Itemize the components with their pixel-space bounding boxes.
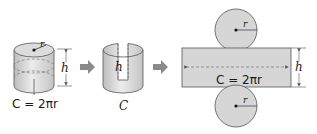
top-radius-label: r [243,19,248,29]
circumference-label: C = 2πr [12,97,58,111]
step-arrow-2 [153,60,168,74]
step-arrow-1 [80,60,95,74]
height-label: h [61,61,69,75]
rectangle-height-label: h [295,60,303,74]
opened-circumference-label: C [119,99,128,113]
cylinder-net-figure: r C = 2πr h r [182,9,306,127]
opened-cylinder-body [103,44,143,94]
opened-cylinder-figure: h C [103,44,143,114]
cylinder-net-diagram: r h C = 2πr h C r C = 2πr h r [0,0,317,134]
cylinder-figure: r h C = 2πr [12,39,72,111]
radius-label: r [40,39,45,49]
opened-height-label: h [115,60,123,74]
bottom-radius-label: r [243,95,248,105]
